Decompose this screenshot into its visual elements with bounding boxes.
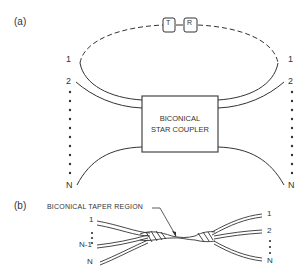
b-port-n-1-left: N-1 [79, 240, 92, 249]
receiver-label: R [187, 19, 192, 26]
b-port-n-left: N [87, 257, 93, 266]
panel-b-fibers [97, 208, 262, 265]
port-1-left: 1 [66, 54, 71, 64]
dashed-loop-right [198, 25, 278, 63]
port-1-right: 1 [288, 54, 293, 64]
fiber-1-right [218, 63, 278, 100]
coupler-label: BICONICAL STAR COUPLER [142, 113, 218, 135]
fiber-2-left [76, 82, 142, 108]
b-port-1-left: 1 [89, 215, 93, 224]
port-n-left: N [66, 180, 73, 190]
port-n-right: N [288, 180, 295, 190]
taper-region-callout: BICONICAL TAPER REGION [47, 203, 143, 210]
port-2-left: 2 [66, 76, 71, 86]
panel-b-label: (b) [14, 200, 26, 211]
dashed-loop-left [80, 25, 163, 63]
fiber-n-left [77, 147, 142, 185]
b-port-n-right: N [267, 256, 273, 265]
fiber-n-right [218, 147, 284, 185]
b-port-2-right: 2 [267, 226, 271, 235]
panel-a-label: (a) [14, 16, 26, 27]
fiber-1-left [80, 63, 142, 100]
coupler-label-line1: BICONICAL [142, 113, 218, 124]
port-2-right: 2 [288, 76, 293, 86]
panel-a [76, 18, 284, 185]
fiber-2-right [218, 82, 284, 108]
transmitter-label: T [166, 19, 170, 26]
star-coupler-diagram: (a) T R 1 2 N 1 2 N BICONICAL STAR COUPL… [0, 0, 305, 280]
coupler-label-line2: STAR COUPLER [142, 124, 218, 135]
b-port-1-right: 1 [267, 209, 271, 218]
